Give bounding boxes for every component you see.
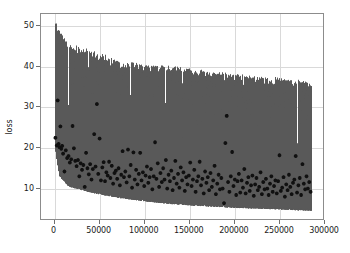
y-tick-label: 40 [14,61,34,70]
x-tick-label: 250000 [264,226,293,235]
x-tick-label: 200000 [219,226,248,235]
x-tick-mark [99,220,100,224]
x-tick-label: 50000 [86,226,110,235]
y-tick-label: 30 [14,102,34,111]
loss-chart-figure: loss 1020304050 050000100000150000200000… [0,0,350,253]
x-tick-label: 0 [51,226,56,235]
y-tick-label: 20 [14,142,34,151]
x-tick-mark [189,220,190,224]
x-tick-mark [144,220,145,224]
y-tick-label: 50 [14,21,34,30]
x-tick-label: 300000 [309,226,338,235]
x-tick-label: 100000 [129,226,158,235]
plot-area [40,13,324,220]
x-tick-label: 150000 [174,226,203,235]
y-axis-label: loss [5,119,14,134]
x-tick-mark [324,220,325,224]
x-tick-mark [54,220,55,224]
x-tick-mark [279,220,280,224]
validation-scatter-series [41,14,324,220]
x-tick-mark [234,220,235,224]
y-tick-label: 10 [14,183,34,192]
